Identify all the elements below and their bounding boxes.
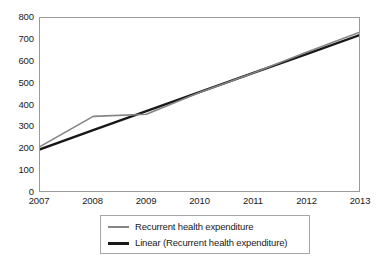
series-line-swatch-icon (108, 226, 129, 228)
legend-item-label: Recurrent health expenditure (135, 221, 253, 233)
x-tick-label: 2008 (82, 195, 103, 207)
y-tick-label: 700 (0, 34, 34, 44)
legend-item-recurrent-health-expenditure: Recurrent health expenditure (107, 219, 303, 235)
series-line-recurrent-health-expenditure (40, 32, 359, 146)
legend-item-linear-recurrent-health-expenditure: Linear (Recurrent health expenditure) (107, 235, 303, 251)
x-tick-label: 2011 (243, 195, 263, 207)
legend-item-label: Linear (Recurrent health expenditure) (135, 237, 287, 249)
plot-area (39, 17, 360, 192)
x-axis: 2007200820092010201120122013 (39, 195, 360, 209)
y-tick-label: 600 (0, 56, 34, 66)
y-axis: 0100200300400500600700800 (0, 17, 34, 192)
x-tick-label: 2010 (189, 195, 210, 207)
y-tick-label: 100 (0, 165, 34, 175)
x-tick-label: 2007 (29, 195, 50, 207)
y-tick-label: 400 (0, 100, 34, 110)
line-chart: 0100200300400500600700800 20072008200920… (0, 0, 385, 266)
chart-legend: Recurrent health expenditure Linear (Rec… (100, 215, 310, 254)
y-tick-label: 300 (0, 121, 34, 131)
y-tick-label: 800 (0, 12, 34, 22)
y-tick-label: 500 (0, 78, 34, 88)
y-tick-label: 200 (0, 143, 34, 153)
trendline-swatch-icon (108, 242, 129, 245)
plot-svg (40, 18, 359, 191)
x-tick-label: 2013 (350, 195, 371, 207)
x-tick-label: 2012 (296, 195, 317, 207)
x-tick-label: 2009 (136, 195, 157, 207)
